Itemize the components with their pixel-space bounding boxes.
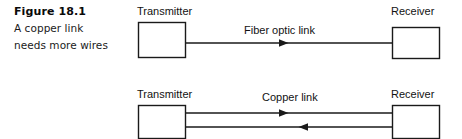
copper-link-label: Copper link [262,91,318,103]
receiver-box-fiber [393,28,440,59]
receiver-label-copper: Receiver [391,88,434,100]
copper-diagram [139,106,440,139]
copper-wire-inbound-arrowhead-left [299,123,309,131]
copper-wire-outbound-arrowhead-right [279,109,289,117]
fiber-optic-link-label: Fiber optic link [244,24,315,36]
transmitter-box-fiber [139,23,186,58]
receiver-label-fiber: Receiver [391,5,434,17]
figure-page: Figure 18.1 A copper link needs more wir… [0,0,462,139]
fiber-link-arrowhead-right [279,39,289,47]
receiver-box-copper [393,106,440,139]
transmitter-label-fiber: Transmitter [137,5,192,17]
transmitter-box-copper [139,106,186,139]
transmitter-label-copper: Transmitter [137,88,192,100]
diagram-canvas [0,0,462,139]
